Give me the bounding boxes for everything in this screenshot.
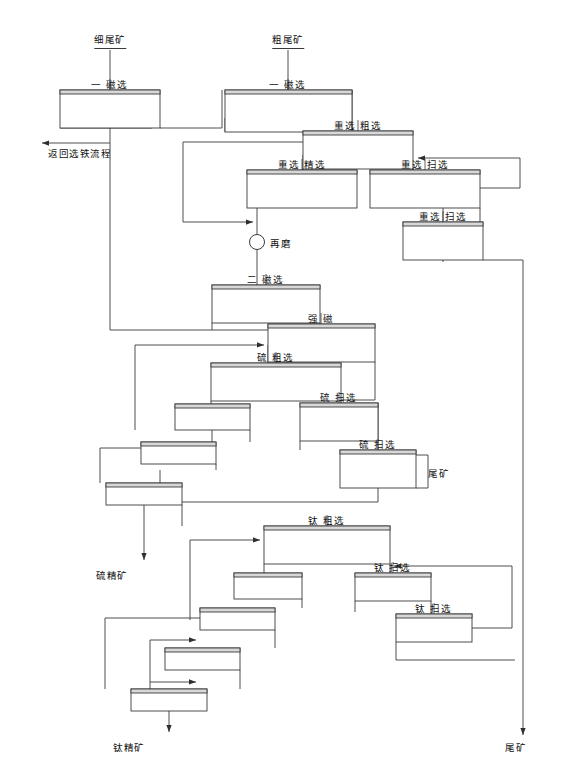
regrind-mill-icon [250, 235, 265, 250]
unit-label-u-grav-scav1: 重选 扫选 [401, 157, 449, 171]
feed-label-feed-fine: 细尾矿 [94, 32, 126, 49]
unit-box-header [141, 442, 216, 446]
feed-label-feed-coarse: 粗尾矿 [272, 32, 304, 49]
unit-box-header [106, 483, 182, 487]
flowsheet-canvas: 一 磁选一 磁选重选 粗选重选 精选重选 扫选重选 扫选二 磁选强 磁硫 粗选硫… [0, 0, 563, 776]
unit-label-u-mag1-fine: 一 磁选 [91, 77, 128, 91]
stream-label-tailings-final: 尾矿 [505, 740, 526, 754]
flowsheet-lines [0, 0, 563, 776]
unit-label-u-s-scav2: 硫 扫选 [359, 437, 396, 451]
unit-label-u-mag2: 二 磁选 [247, 272, 284, 286]
stream-label-titanium-concentrate: 钛精矿 [113, 740, 145, 754]
unit-label-u-grav-clean: 重选 精选 [278, 157, 326, 171]
unit-label-u-mag1-coarse: 一 磁选 [269, 77, 306, 91]
unit-label-u-ti-rough: 钛 粗选 [308, 513, 345, 527]
unit-label-u-s-scav1: 硫 扫选 [320, 390, 357, 404]
unit-label-u-grav-rough: 重选 粗选 [334, 118, 382, 132]
unit-box [403, 222, 483, 260]
unit-box [60, 90, 160, 128]
unit-box [264, 526, 390, 564]
unit-box [300, 403, 378, 441]
unit-box [370, 170, 480, 208]
unit-box-header [131, 689, 207, 693]
unit-label-u-s-rough: 硫 粗选 [257, 350, 294, 364]
unit-label-u-grav-scav2: 重选 扫选 [419, 209, 467, 223]
unit-box-header [200, 608, 275, 612]
stream-label-sulfur-concentrate: 硫精矿 [96, 568, 128, 582]
unit-box-header [234, 573, 302, 577]
unit-box [247, 170, 357, 208]
stream-label-return-iron: 返回选铁流程 [48, 146, 111, 160]
unit-label-u-ti-scav1: 钛 扫选 [374, 560, 411, 574]
unit-label-u-ti-scav2: 钛 扫选 [415, 601, 452, 615]
unit-box-header [165, 648, 240, 652]
unit-box-header [175, 404, 250, 408]
stream-label-tailings-sulfur: 尾矿 [428, 466, 449, 480]
regrind-label: 再磨 [270, 236, 291, 250]
unit-box [340, 450, 416, 488]
unit-label-u-high-mag: 强 磁 [308, 311, 334, 325]
unit-box [212, 285, 320, 323]
unit-boxes [60, 79, 483, 711]
